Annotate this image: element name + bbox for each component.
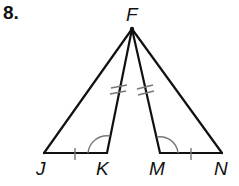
label-n: N [214,158,228,180]
label-j: J [36,158,46,180]
vertex-f-dot [130,27,134,31]
double-tick-fk-1 [111,85,127,88]
label-k: K [96,158,109,180]
label-f: F [126,4,138,26]
label-m: M [149,158,165,180]
